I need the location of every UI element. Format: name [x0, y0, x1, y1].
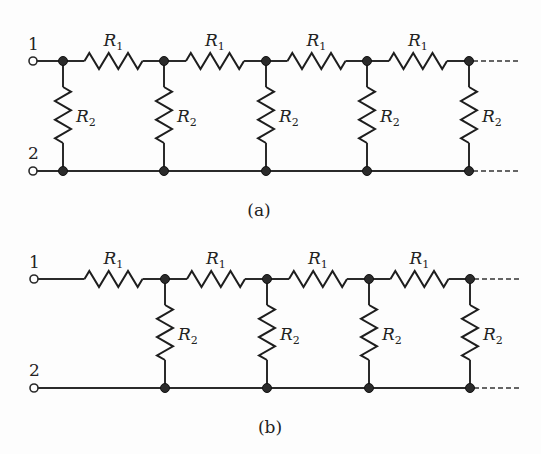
junction-node	[466, 275, 475, 284]
r1-label: R1	[407, 30, 428, 53]
r1-label: R1	[103, 248, 124, 271]
r2-label-subscript: 2	[495, 116, 502, 129]
terminal-2	[30, 384, 38, 392]
shunt-resistor-r2	[156, 87, 172, 143]
caption-b: (b)	[258, 417, 282, 437]
junction-node	[59, 167, 68, 176]
junction-node	[160, 57, 169, 66]
ladder-network-diagram: 12R1R1R1R1R2R2R2R2R2 12R1R1R1R1R2R2R2R2 …	[0, 0, 541, 454]
r2-label-subscript: 2	[89, 116, 96, 129]
terminal-1-label: 1	[28, 34, 39, 54]
shunt-resistor-r2	[259, 305, 275, 360]
junction-node	[363, 167, 372, 176]
r1-label: R1	[409, 248, 430, 271]
series-resistor-r1	[187, 271, 245, 287]
junction-node	[465, 167, 474, 176]
terminal-1	[29, 57, 37, 65]
shunt-resistor-r2	[258, 87, 274, 143]
junction-node	[365, 384, 374, 393]
junction-node	[161, 384, 170, 393]
r1-label: R1	[307, 248, 328, 271]
terminal-2	[29, 167, 37, 175]
shunt-resistor-r2	[462, 305, 478, 360]
r1-label-subscript: 1	[218, 40, 225, 53]
circuit-figure: 12R1R1R1R1R2R2R2R2R2 12R1R1R1R1R2R2R2R2 …	[0, 0, 541, 454]
r1-label: R1	[306, 30, 327, 53]
caption-a: (a)	[247, 200, 270, 220]
panel-a-circuit: 12R1R1R1R1R2R2R2R2R2	[28, 30, 521, 176]
r2-label: R2	[481, 106, 502, 129]
terminal-2-label: 2	[28, 143, 39, 163]
junction-node	[262, 167, 271, 176]
junction-node	[465, 57, 474, 66]
shunt-resistor-r2	[361, 305, 377, 360]
r2-label: R2	[278, 106, 299, 129]
r2-label-subscript: 2	[293, 334, 300, 347]
series-resistor-r1	[85, 53, 143, 69]
junction-node	[363, 57, 372, 66]
r1-label: R1	[204, 30, 225, 53]
junction-node	[365, 275, 374, 284]
series-resistor-r1	[389, 53, 447, 69]
series-resistor-r1	[391, 271, 449, 287]
junction-node	[160, 167, 169, 176]
shunt-resistor-r2	[461, 87, 477, 143]
junction-node	[263, 275, 272, 284]
terminal-2-label: 2	[29, 360, 40, 380]
r2-label: R2	[381, 324, 402, 347]
terminal-1	[30, 275, 38, 283]
shunt-resistor-r2	[157, 305, 173, 360]
terminal-1-label: 1	[29, 252, 40, 272]
shunt-resistor-r2	[55, 87, 71, 143]
junction-node	[161, 275, 170, 284]
r1-label: R1	[205, 248, 226, 271]
series-resistor-r1	[85, 271, 143, 287]
r2-label: R2	[279, 324, 300, 347]
junction-node	[59, 57, 68, 66]
r2-label-subscript: 2	[190, 116, 197, 129]
series-resistor-r1	[289, 271, 347, 287]
r2-label: R2	[482, 324, 503, 347]
r1-label-subscript: 1	[116, 40, 123, 53]
r1-label-subscript: 1	[421, 40, 428, 53]
r2-label: R2	[75, 106, 96, 129]
junction-node	[263, 384, 272, 393]
series-resistor-r1	[186, 53, 244, 69]
r2-label: R2	[177, 324, 198, 347]
r1-label: R1	[103, 30, 124, 53]
r2-label-subscript: 2	[395, 334, 402, 347]
r1-label-subscript: 1	[422, 258, 429, 271]
r1-label-subscript: 1	[219, 258, 226, 271]
r1-label-subscript: 1	[319, 40, 326, 53]
r1-label-subscript: 1	[116, 258, 123, 271]
series-resistor-r1	[288, 53, 346, 69]
junction-node	[466, 384, 475, 393]
r2-label-subscript: 2	[496, 334, 503, 347]
r2-label-subscript: 2	[191, 334, 198, 347]
r2-label-subscript: 2	[292, 116, 299, 129]
r2-label: R2	[379, 106, 400, 129]
shunt-resistor-r2	[359, 87, 375, 143]
r2-label: R2	[176, 106, 197, 129]
junction-node	[262, 57, 271, 66]
r2-label-subscript: 2	[393, 116, 400, 129]
panel-b-circuit: 12R1R1R1R1R2R2R2R2	[29, 248, 522, 393]
r1-label-subscript: 1	[321, 258, 328, 271]
